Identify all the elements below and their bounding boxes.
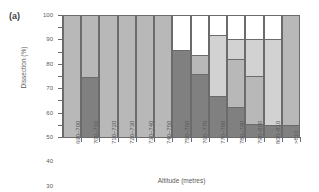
bar-segment-class-2-mid-grey: [81, 15, 99, 77]
x-axis-tick-label: >810: [293, 130, 299, 144]
y-axis-tick: 20: [58, 113, 62, 114]
bar-segment-class-2-mid-grey: [99, 15, 117, 137]
x-axis-tick: [99, 138, 100, 142]
bar-770-780[interactable]: [209, 15, 227, 137]
x-axis-tick-label: 730–740: [148, 121, 154, 144]
y-axis-tick-label: 100: [43, 12, 53, 18]
x-axis-tick-label: 750–760: [184, 121, 190, 144]
y-axis-tick: 100: [58, 15, 62, 16]
y-axis-tick: 90: [58, 27, 62, 28]
bar-810[interactable]: [282, 15, 300, 137]
x-axis-tick-label: 770–780: [220, 121, 226, 144]
x-axis-tick: [136, 138, 137, 142]
y-axis-tick: 50: [58, 76, 62, 77]
bar-segment-class-4-white: [172, 15, 190, 50]
y-axis-tick-label: 90: [46, 36, 53, 42]
y-axis-tick-label: 30: [46, 183, 53, 189]
x-axis-tick: [300, 138, 301, 142]
bar-segment-class-2-mid-grey: [154, 15, 172, 137]
bar-segment-class-3-light-grey: [245, 39, 263, 76]
bar-720-730[interactable]: [118, 15, 136, 137]
bar-710-720[interactable]: [99, 15, 117, 137]
y-axis-tick: 10: [58, 125, 62, 126]
bar-segment-class-4-white: [191, 15, 209, 55]
bar-segment-class-2-mid-grey: [118, 15, 136, 137]
bar-780-790[interactable]: [227, 15, 245, 137]
bar-segment-class-3-light-grey: [264, 39, 282, 124]
y-axis-tick: 30: [58, 100, 62, 101]
bar-segment-class-4-white: [227, 15, 245, 39]
bar-750-760[interactable]: [172, 15, 190, 137]
x-axis-title: Altitude (metres): [63, 177, 300, 184]
x-axis-tick: [191, 138, 192, 142]
y-axis-tick: 60: [58, 64, 62, 65]
y-axis-tick-label: 40: [46, 158, 53, 164]
y-axis-title: Dissection (%): [20, 23, 27, 113]
x-axis-tick-label: 800–810: [275, 121, 281, 144]
bar-760-770[interactable]: [191, 15, 209, 137]
bar-690-700[interactable]: [63, 15, 81, 137]
y-axis-tick: 40: [58, 88, 62, 89]
x-axis-tick-label: 690–700: [75, 121, 81, 144]
x-axis-tick-label: 790–800: [257, 121, 263, 144]
x-axis-tick: [245, 138, 246, 142]
x-axis-tick-label: 740–750: [166, 121, 172, 144]
bar-segment-class-2-mid-grey: [63, 15, 81, 137]
bar-segment-class-2-mid-grey: [245, 76, 263, 124]
x-axis-tick: [172, 138, 173, 142]
y-axis-tick-label: 70: [46, 85, 53, 91]
x-axis-tick-label: 700–710: [93, 121, 99, 144]
bar-segment-class-3-light-grey: [209, 35, 227, 96]
x-axis-tick: [227, 138, 228, 142]
x-axis-tick: [81, 138, 82, 142]
y-axis-tick-label: 80: [46, 61, 53, 67]
bar-segment-class-2-mid-grey: [136, 15, 154, 137]
x-axis-tick-label: 710–720: [111, 121, 117, 144]
bar-segment-class-2-mid-grey: [191, 55, 209, 73]
x-axis-tick: [154, 138, 155, 142]
plot-area: [63, 15, 300, 137]
x-axis-tick: [264, 138, 265, 142]
bar-segment-class-4-white: [264, 15, 282, 39]
bar-740-750[interactable]: [154, 15, 172, 137]
y-axis-tick: 80: [58, 39, 62, 40]
bar-730-740[interactable]: [136, 15, 154, 137]
bar-segment-class-3-light-grey: [227, 39, 245, 59]
y-axis-tick-label: 60: [46, 110, 53, 116]
bar-700-710[interactable]: [81, 15, 99, 137]
figure-panel-a: (a) Dissection (%) 010203040506070809010…: [0, 0, 319, 192]
bar-segment-class-4-white: [245, 15, 263, 39]
bar-790-800[interactable]: [245, 15, 263, 137]
x-axis-tick-label: 720–730: [129, 121, 135, 144]
panel-label: (a): [9, 11, 20, 21]
bar-800-810[interactable]: [264, 15, 282, 137]
bar-segment-class-2-mid-grey: [227, 59, 245, 107]
x-axis-tick: [282, 138, 283, 142]
x-axis-tick: [118, 138, 119, 142]
y-axis-tick: 70: [58, 52, 62, 53]
bar-segment-class-2-mid-grey: [282, 15, 300, 125]
x-axis-tick-label: 780–790: [239, 121, 245, 144]
x-axis-tick: [209, 138, 210, 142]
x-axis-tick-label: 760–770: [202, 121, 208, 144]
bar-segment-class-4-white: [209, 15, 227, 35]
y-axis-tick-label: 50: [46, 134, 53, 140]
